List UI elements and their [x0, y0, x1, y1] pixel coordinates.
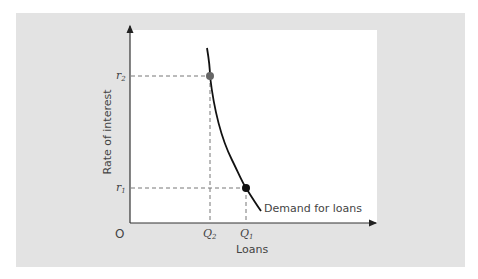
demand-curve: [207, 48, 261, 211]
origin-label: O: [115, 227, 124, 241]
point-r1-q1: [242, 184, 250, 192]
q1-tick: Q1: [240, 227, 254, 241]
x-axis-label: Loans: [236, 243, 268, 256]
chart-svg: [0, 0, 478, 279]
y-axis-label: Rate of interest: [101, 89, 114, 174]
demand-curve-label: Demand for loans: [264, 202, 362, 215]
q2-tick: Q2: [203, 227, 217, 241]
r1-tick: r1: [116, 181, 126, 195]
point-r2-q2: [206, 72, 214, 80]
r2-tick: r2: [116, 69, 126, 83]
